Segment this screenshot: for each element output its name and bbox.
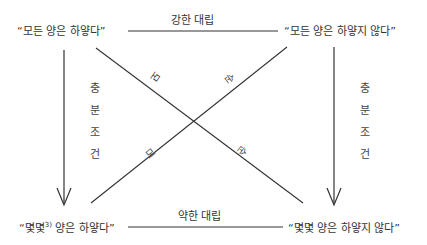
contradiction-diagonal-desc (96, 48, 303, 203)
vertical-char: 조 (89, 122, 101, 144)
vertical-char: 건 (89, 144, 101, 166)
right-sufficient-condition-label: 충 분 조 건 (359, 78, 371, 166)
vertical-char: 조 (359, 122, 371, 144)
vertical-char: 충 (89, 78, 101, 100)
left-sufficient-condition-label: 충 분 조 건 (89, 78, 101, 166)
bottom-left-suffix: 양은 하얗다” (52, 222, 115, 235)
bottom-left-proposition: “몇몇3) 양은 하얗다” (19, 219, 115, 235)
strong-opposition-label: 강한 대립 (171, 11, 215, 27)
top-right-proposition: “모든 양은 하얗지 않다” (284, 22, 396, 38)
vertical-char: 건 (359, 144, 371, 166)
top-left-proposition: “모든 양은 하얗다” (17, 22, 105, 38)
vertical-char: 충 (359, 78, 371, 100)
bottom-left-prefix: “몇몇 (19, 222, 45, 235)
bottom-right-proposition: “몇몇 양은 하얗지 않다” (288, 219, 400, 235)
vertical-char: 분 (89, 100, 101, 122)
weak-opposition-label: 약한 대립 (178, 207, 222, 223)
vertical-char: 분 (359, 100, 371, 122)
footnote-marker: 3) (45, 221, 52, 229)
contradiction-diagonal-asc (91, 47, 287, 203)
